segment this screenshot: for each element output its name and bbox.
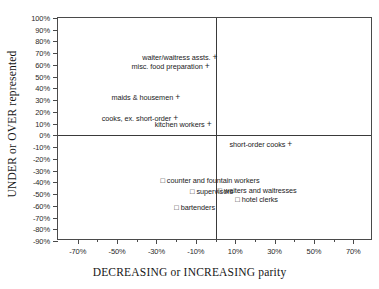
plus-marker-icon: +: [205, 62, 210, 71]
x-tick-label: -10%: [187, 247, 204, 256]
x-tick-label: -30%: [148, 247, 165, 256]
data-point-label: □ counter and fountain workers: [160, 177, 259, 185]
x-tick: [275, 239, 276, 244]
square-marker-icon: □: [190, 188, 194, 196]
x-tick-minor: [216, 239, 217, 242]
y-tick-label: 10%: [35, 119, 50, 128]
y-tick: [53, 171, 58, 172]
y-tick: [53, 41, 58, 42]
x-tick-minor: [97, 239, 98, 242]
plot-area: 100%90%80%70%60%50%40%30%20%10%0%-10%-20…: [57, 17, 372, 240]
x-tick: [117, 239, 118, 244]
y-tick-label: -60%: [33, 201, 50, 210]
x-tick: [235, 239, 236, 244]
y-tick-label: -50%: [33, 190, 50, 199]
y-tick-label: 0%: [39, 131, 50, 140]
y-tick-label: 60%: [35, 60, 50, 69]
point-text: waiters and waitresses: [224, 186, 297, 195]
x-tick-label: 50%: [307, 247, 322, 256]
y-tick-label: 70%: [35, 49, 50, 58]
y-tick: [53, 65, 58, 66]
y-tick: [53, 182, 58, 183]
x-tick-label: -50%: [109, 247, 126, 256]
y-tick: [53, 229, 58, 230]
square-marker-icon: □: [174, 204, 178, 212]
data-point-label: waiter/waitress assts. +: [142, 52, 217, 61]
data-point-label: maids & housemen +: [111, 92, 180, 101]
plus-marker-icon: +: [175, 92, 180, 101]
point-text: waiter/waitress assts.: [142, 52, 210, 61]
y-tick: [53, 18, 58, 19]
y-tick-label: -30%: [33, 166, 50, 175]
x-tick-label: 30%: [267, 247, 282, 256]
data-point-label: short-order cooks +: [229, 139, 292, 148]
point-text: misc. food preparation: [132, 62, 203, 71]
point-text: counter and fountain workers: [167, 176, 260, 185]
square-marker-icon: □: [160, 177, 164, 185]
x-tick-label: 70%: [346, 247, 361, 256]
y-tick: [53, 194, 58, 195]
y-tick: [53, 30, 58, 31]
x-tick-minor: [176, 239, 177, 242]
point-text: short-order cooks: [229, 139, 285, 148]
y-tick-label: 40%: [35, 84, 50, 93]
y-tick: [53, 159, 58, 160]
data-point-label: kitchen workers +: [155, 119, 212, 128]
y-tick-label: 90%: [35, 25, 50, 34]
x-tick-label: 10%: [228, 247, 243, 256]
point-text: kitchen workers: [155, 119, 205, 128]
x-tick: [353, 239, 354, 244]
y-tick-label: -20%: [33, 154, 50, 163]
scatter-chart-figure: UNDER or OVER represented 100%90%80%70%6…: [0, 0, 379, 289]
square-marker-icon: □: [235, 196, 239, 204]
x-tick: [156, 239, 157, 244]
x-tick-minor: [255, 239, 256, 242]
y-tick: [53, 124, 58, 125]
square-marker-icon: □: [217, 187, 221, 195]
y-tick-label: -80%: [33, 225, 50, 234]
data-point-label: misc. food preparation +: [132, 62, 210, 71]
x-tick-label: -70%: [69, 247, 86, 256]
y-tick-label: 100%: [31, 14, 50, 23]
y-tick: [53, 88, 58, 89]
y-tick: [53, 147, 58, 148]
y-tick-label: 80%: [35, 37, 50, 46]
y-tick-label: 50%: [35, 72, 50, 81]
y-tick-label: -70%: [33, 213, 50, 222]
x-tick: [78, 239, 79, 244]
x-tick: [196, 239, 197, 244]
plus-marker-icon: +: [207, 119, 212, 128]
point-text: bartenders: [181, 203, 215, 212]
x-axis-title: DECREASING or INCREASING parity: [0, 266, 379, 278]
y-tick: [53, 77, 58, 78]
data-point-label: □ hotel clerks: [235, 196, 278, 204]
y-tick: [53, 135, 58, 136]
plus-marker-icon: +: [213, 52, 218, 61]
y-tick-label: -90%: [33, 237, 50, 246]
y-tick-label: 20%: [35, 107, 50, 116]
y-tick-label: -10%: [33, 143, 50, 152]
y-tick: [53, 53, 58, 54]
x-tick-minor: [334, 239, 335, 242]
x-tick-minor: [137, 239, 138, 242]
y-tick: [53, 241, 58, 242]
plus-marker-icon: +: [287, 139, 292, 148]
point-text: hotel clerks: [242, 195, 278, 204]
y-axis-title: UNDER or OVER represented: [6, 24, 18, 224]
data-point-label: □ waiters and waitresses: [217, 187, 296, 195]
y-tick: [53, 218, 58, 219]
y-tick-label: 30%: [35, 96, 50, 105]
y-tick: [53, 112, 58, 113]
y-tick: [53, 100, 58, 101]
zero-horizontal-line: [58, 135, 371, 136]
y-tick: [53, 206, 58, 207]
y-tick-label: -40%: [33, 178, 50, 187]
x-tick-minor: [294, 239, 295, 242]
data-point-label: □ bartenders: [174, 204, 215, 212]
x-tick: [314, 239, 315, 244]
point-text: maids & housemen: [111, 92, 173, 101]
